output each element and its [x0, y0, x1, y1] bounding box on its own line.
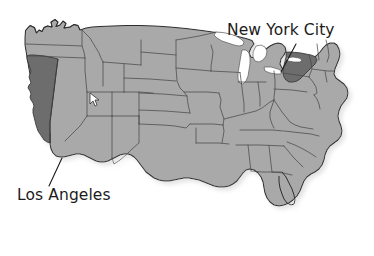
leader-line-los-angeles [49, 158, 62, 186]
us-map-figure: New York City Los Angeles [0, 0, 374, 256]
annotation-label-los-angeles: Los Angeles [17, 188, 111, 204]
landmass-group [25, 20, 348, 207]
annotation-label-new-york-city: New York City [227, 23, 335, 39]
